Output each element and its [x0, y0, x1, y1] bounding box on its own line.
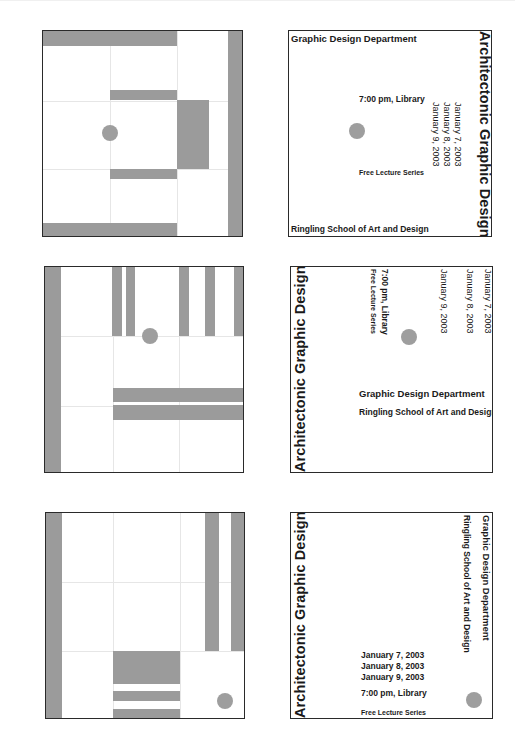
circle-dot: [401, 329, 417, 345]
school-label: Ringling School of Art and Design: [463, 515, 472, 653]
time-place-label: 7:00 pm, Library: [359, 95, 425, 104]
right-vertical-bar-block: [205, 513, 219, 651]
school-label: Ringling School of Art and Design: [359, 408, 493, 417]
type-panel-2: Architectonic Graphic Design 7:00 pm, Li…: [290, 266, 493, 473]
type-panel-1: Graphic Design Department Architectonic …: [288, 30, 492, 237]
circle-dot: [466, 692, 482, 708]
right-vertical-bar-block: [231, 513, 245, 651]
horizontal-bar-block: [113, 388, 244, 402]
type-panel-3: Architectonic Graphic Design Graphic Des…: [290, 512, 493, 719]
left-vertical-bar-block: [45, 267, 61, 473]
square-block: [177, 100, 209, 169]
time-place-label: 7:00 pm, Library: [381, 269, 390, 335]
department-label: Graphic Design Department: [482, 515, 492, 641]
circle-dot: [217, 693, 233, 709]
horizontal-bar-block: [113, 405, 244, 420]
abstract-panel-3: [45, 512, 245, 719]
abstract-panel-1: [42, 30, 243, 237]
grid-line: [180, 513, 181, 718]
abstract-panel-2: [44, 266, 244, 473]
title-label: Architectonic Graphic Design: [478, 31, 493, 237]
circle-dot: [142, 328, 158, 344]
left-vertical-bar-block: [46, 513, 62, 719]
mid-lower-bar-block: [110, 169, 177, 179]
date-1: January 7, 2003: [361, 651, 424, 660]
series-label: Free Lecture Series: [370, 269, 377, 334]
series-label: Free Lecture Series: [359, 169, 424, 176]
horizontal-bar-block: [113, 691, 180, 701]
department-label: Graphic Design Department: [359, 389, 485, 399]
vertical-stripe-block: [126, 267, 135, 336]
date-3: January 9, 2003: [431, 102, 440, 167]
department-label: Graphic Design Department: [291, 34, 417, 44]
top-bar-block: [43, 31, 177, 46]
grid-line: [113, 513, 114, 718]
vertical-stripe-block: [112, 267, 122, 336]
date-1: January 7, 2003: [453, 102, 462, 167]
school-label: Ringling School of Art and Design: [291, 225, 429, 234]
date-3: January 9, 2003: [439, 269, 448, 334]
circle-dot: [349, 123, 365, 139]
vertical-stripe-block: [234, 267, 244, 336]
title-label: Architectonic Graphic Design: [293, 512, 308, 718]
date-2: January 8, 2003: [442, 102, 451, 167]
series-label: Free Lecture Series: [361, 709, 426, 716]
date-2: January 8, 2003: [465, 269, 474, 334]
square-block: [113, 651, 180, 684]
date-2: January 8, 2003: [361, 662, 424, 671]
title-label: Architectonic Graphic Design: [293, 266, 308, 472]
date-3: January 9, 2003: [361, 673, 424, 682]
horizontal-bar-block: [113, 709, 180, 719]
page-edge-line: [0, 0, 515, 1]
grid-line: [43, 101, 242, 102]
time-place-label: 7:00 pm, Library: [361, 689, 427, 698]
circle-dot: [102, 125, 118, 141]
vertical-stripe-block: [179, 267, 189, 336]
bottom-bar-block: [43, 223, 177, 237]
right-vertical-bar-block: [228, 31, 243, 237]
date-1: January 7, 2003: [483, 269, 492, 334]
mid-upper-bar-block: [110, 90, 177, 100]
vertical-stripe-block: [205, 267, 215, 336]
